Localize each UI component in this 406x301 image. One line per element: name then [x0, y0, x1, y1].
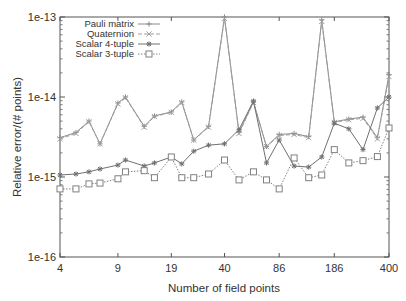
square-marker-icon: [331, 147, 337, 153]
square-marker-icon: [73, 186, 79, 192]
square-marker-icon: [97, 180, 103, 186]
square-marker-icon: [86, 181, 92, 187]
x-axis-title: Number of field points: [168, 282, 280, 294]
star-marker-icon: [264, 160, 269, 165]
chart: 491940861864001e-161e-151e-141e-13 Pauli…: [0, 0, 406, 301]
y-tick-label: 1e-16: [28, 251, 56, 263]
square-marker-icon: [250, 169, 256, 175]
y-tick-label: 1e-13: [28, 11, 56, 23]
star-marker-icon: [123, 157, 128, 162]
square-marker-icon: [168, 154, 174, 160]
square-marker-icon: [374, 154, 380, 160]
star-marker-icon: [191, 149, 196, 154]
star-marker-icon: [319, 154, 324, 159]
legend: Pauli matrixQuaternionScalar 4-tupleScal…: [75, 18, 160, 59]
square-marker-icon: [151, 175, 157, 181]
star-marker-icon: [222, 141, 227, 146]
star-marker-icon: [346, 126, 351, 131]
x-tick-label: 9: [115, 262, 121, 274]
star-marker-icon: [152, 160, 157, 165]
star-marker-icon: [236, 127, 241, 132]
star-marker-icon: [375, 105, 380, 110]
square-marker-icon: [146, 51, 152, 57]
star-marker-icon: [292, 163, 297, 168]
square-marker-icon: [360, 158, 366, 164]
x-tick-label: 4: [57, 262, 63, 274]
square-marker-icon: [206, 171, 212, 177]
star-marker-icon: [360, 147, 365, 152]
legend-label: Scalar 3-tuple: [75, 48, 134, 59]
square-marker-icon: [346, 160, 352, 166]
x-tick-label: 86: [273, 262, 285, 274]
star-marker-icon: [73, 171, 78, 176]
square-marker-icon: [236, 177, 242, 183]
star-marker-icon: [386, 94, 391, 99]
square-marker-icon: [179, 175, 185, 181]
y-tick-label: 1e-15: [28, 171, 56, 183]
star-marker-icon: [179, 161, 184, 166]
square-marker-icon: [319, 172, 325, 178]
square-marker-icon: [263, 177, 269, 183]
star-marker-icon: [277, 137, 282, 142]
y-axis-title: Relative error/(# points): [11, 77, 23, 197]
square-marker-icon: [115, 176, 121, 182]
series-scalar-3-tuple: [57, 125, 392, 192]
star-marker-icon: [97, 166, 102, 171]
square-marker-icon: [306, 175, 312, 181]
square-marker-icon: [191, 175, 197, 181]
y-tick-label: 1e-14: [28, 91, 56, 103]
x-tick-label: 186: [325, 262, 343, 274]
square-marker-icon: [57, 186, 63, 192]
square-marker-icon: [141, 168, 147, 174]
star-marker-icon: [86, 169, 91, 174]
star-marker-icon: [115, 162, 120, 167]
x-tick-label: 19: [165, 262, 177, 274]
square-marker-icon: [291, 155, 297, 161]
star-marker-icon: [251, 98, 256, 103]
star-marker-icon: [57, 172, 62, 177]
star-marker-icon: [206, 143, 211, 148]
square-marker-icon: [122, 169, 128, 175]
x-tick-label: 40: [218, 262, 230, 274]
x-tick-label: 400: [380, 262, 398, 274]
star-marker-icon: [146, 41, 151, 46]
series-scalar-4-tuple: [57, 94, 391, 177]
plus-marker-icon: [292, 131, 297, 136]
plus-marker-icon: [146, 21, 151, 26]
star-marker-icon: [332, 121, 337, 126]
square-marker-icon: [276, 186, 282, 192]
square-marker-icon: [386, 125, 392, 131]
square-marker-icon: [222, 157, 228, 163]
star-marker-icon: [306, 164, 311, 169]
